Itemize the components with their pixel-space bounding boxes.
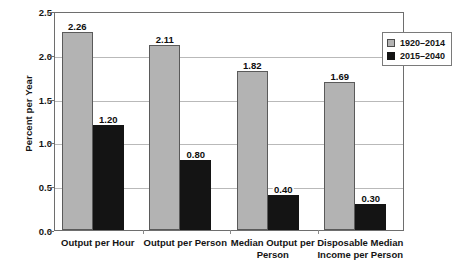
bar-value-label: 0.80 [186,149,207,160]
x-axis-category-label: Disposable MedianIncome per Person [310,237,412,261]
y-axis-tick-label: 1.5 [8,94,52,105]
legend-swatch-icon-series-1 [387,39,395,47]
x-axis-category-label: Output per Hour [47,237,149,249]
y-axis-tick-label: 0.5 [8,182,52,193]
y-axis-tick-mark [48,231,54,232]
bar-value-label: 2.26 [67,21,88,32]
bar-series-1-category-4 [324,82,355,230]
bar-series-2-category-2 [180,160,211,230]
legend-item-1920-2014: 1920–2014 [387,36,445,49]
y-axis-tick-label: 2.5 [8,7,52,18]
bar-value-label: 2.11 [155,34,175,45]
gridline [55,57,403,58]
bar-value-label: 0.30 [361,193,382,204]
legend: 1920–2014 2015–2040 [382,32,452,66]
category-label-line: Disposable Median [310,237,412,249]
bar-value-label: 1.20 [98,114,119,125]
bar-series-2-category-1 [93,125,124,230]
category-separator-tick [230,230,231,234]
bar-series-1-category-2 [149,45,180,230]
bar-value-label: 1.69 [330,71,351,82]
legend-label-series-1: 1920–2014 [400,38,445,48]
y-axis-tick-label: 2.0 [8,50,52,61]
legend-swatch-icon-series-2 [387,52,395,60]
category-label-line: Output per Person [135,237,237,249]
plot-area: 2.261.202.110.801.820.401.690.30 1920–20… [54,12,404,231]
category-separator-tick [318,230,319,234]
category-separator-tick [143,230,144,234]
bar-value-label: 0.40 [273,184,294,195]
bar-series-2-category-4 [355,204,386,230]
y-axis-tick-label: 1.0 [8,138,52,149]
x-axis-category-label: Output per Person [135,237,237,249]
category-label-line: Income per Person [310,249,412,261]
bar-series-2-category-3 [268,195,299,230]
category-label-line: Output per Hour [47,237,149,249]
category-label-line: Median Output per [222,237,324,249]
legend-item-2015-2040: 2015–2040 [387,49,445,62]
legend-label-series-2: 2015–2040 [400,51,445,61]
y-axis-tick-label: 0.0 [8,226,52,237]
bar-series-1-category-1 [62,32,93,230]
bar-series-1-category-3 [237,71,268,230]
bar-value-label: 1.82 [242,60,263,71]
x-axis-category-label: Median Output perPerson [222,237,324,261]
category-label-line: Person [222,249,324,261]
